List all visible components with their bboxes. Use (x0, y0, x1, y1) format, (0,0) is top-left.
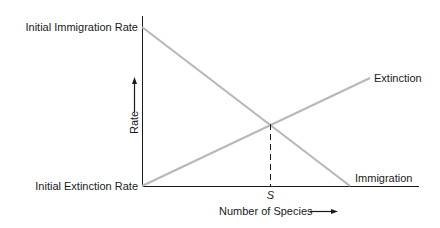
initial-extinction-rate-label: Initial Extinction Rate (35, 180, 138, 192)
x-axis-title: Number of Species (219, 205, 338, 217)
y-axis-title: Rate (128, 77, 140, 134)
initial-immigration-rate-label: Initial Immigration Rate (26, 21, 139, 33)
right-arrowhead-icon (331, 209, 338, 214)
up-arrowhead-icon (132, 77, 137, 84)
rate-label: Rate (128, 111, 140, 134)
number-of-species-label: Number of Species (219, 205, 313, 217)
island-biogeography-diagram: Initial Immigration Rate Initial Extinct… (0, 0, 440, 228)
equilibrium-s-label: S (267, 189, 275, 201)
extinction-curve (142, 78, 370, 186)
extinction-label: Extinction (374, 72, 422, 84)
immigration-label: Immigration (355, 172, 412, 184)
immigration-curve (142, 27, 350, 186)
